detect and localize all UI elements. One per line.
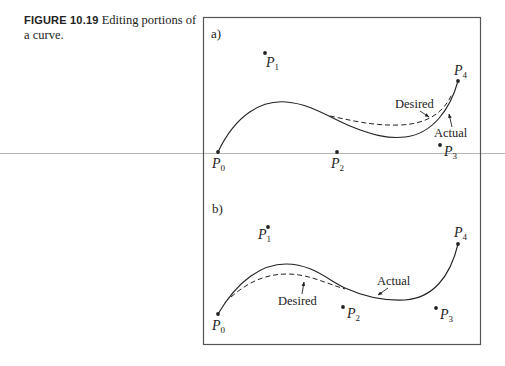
control-point-p1	[266, 225, 270, 229]
label-p3: P3	[439, 307, 454, 324]
label-p4: P4	[453, 225, 468, 242]
desired-arrow	[420, 111, 429, 117]
actual-annotation: Actual	[377, 274, 411, 288]
control-point-p4	[456, 242, 460, 246]
label-p3: P3	[443, 144, 458, 161]
desired-arrow	[302, 282, 304, 294]
control-point-p2	[335, 150, 339, 154]
control-point-p2	[341, 305, 345, 309]
control-point-p0	[216, 150, 220, 154]
panel-b: b) P0 P1 P2 P3 P4 Desired Actual	[211, 201, 468, 335]
control-point-p3	[438, 143, 442, 147]
control-point-p3	[434, 306, 438, 310]
actual-curve	[218, 244, 458, 314]
figure-frame	[204, 18, 481, 345]
actual-arrow	[378, 288, 388, 295]
actual-annotation: Actual	[434, 126, 468, 140]
label-p0: P0	[211, 318, 226, 335]
label-p2: P2	[346, 306, 360, 323]
label-p4: P4	[453, 63, 468, 80]
actual-curve	[218, 81, 458, 152]
panel-label: b)	[212, 201, 223, 216]
label-p2: P2	[330, 156, 344, 173]
label-p1: P1	[257, 227, 271, 244]
panel-label: a)	[211, 26, 221, 41]
figure-diagram: a) P0 P1 P2 P3 P4 Desired Actual b)	[0, 0, 505, 366]
desired-annotation: Desired	[395, 97, 435, 111]
panel-a: a) P0 P1 P2 P3 P4 Desired Actual	[211, 26, 468, 173]
control-point-p4	[456, 79, 460, 83]
desired-annotation: Desired	[278, 294, 318, 308]
label-p0: P0	[211, 156, 226, 173]
label-p1: P1	[265, 55, 279, 72]
control-point-p0	[216, 312, 220, 316]
